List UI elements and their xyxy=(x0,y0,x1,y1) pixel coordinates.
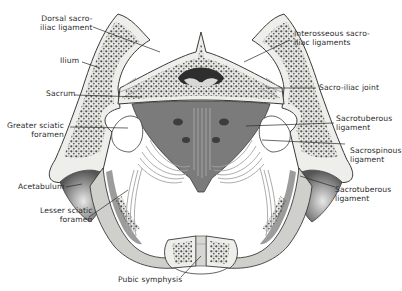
label-sacrotuberous-ligament-upper: Sacrotuberous ligament xyxy=(336,115,392,132)
label-acetabulum: Acetabulum xyxy=(18,183,65,192)
label-sacrum: Sacrum xyxy=(46,90,76,99)
label-ilium: Ilium xyxy=(60,57,79,66)
label-sacrotuberous-ligament-lower: Sacrotuberous ligament xyxy=(335,186,391,203)
label-sacrospinous-ligament: Sacrospinous ligament xyxy=(350,147,402,164)
label-sacroiliac-joint: Sacro-iliac joint xyxy=(319,84,379,93)
label-dorsal-sacroiliac-ligament: Dorsal sacro- iliac ligament xyxy=(40,15,93,32)
label-pubic-symphysis: Pubic symphysis xyxy=(118,276,182,285)
label-greater-sciatic-foramen: Greater sciatic foramen xyxy=(7,122,64,139)
right-greater-sciatic-foramen xyxy=(259,116,290,152)
pubic-region xyxy=(165,236,238,274)
label-interosseous-sacroiliac-ligaments: Interosseous sacro- iliac ligaments xyxy=(294,30,370,47)
label-lesser-sciatic-foramen: Lesser sciatic foramen xyxy=(40,207,92,224)
sacrum xyxy=(118,32,284,192)
left-greater-sciatic-foramen xyxy=(112,116,143,152)
